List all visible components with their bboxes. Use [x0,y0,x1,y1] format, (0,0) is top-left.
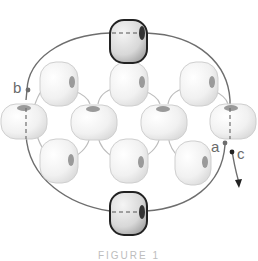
bead-hole-icon [138,156,144,168]
figure-caption: FIGURE 1 [0,250,258,261]
bead-hole-icon [17,105,31,111]
lower-row-beads [40,139,211,185]
upper-row-beads [40,62,218,106]
bead-hole-icon [139,205,145,219]
label-a: a [211,139,219,154]
bead-hole-icon [139,76,145,88]
bead-hole-icon [86,106,100,112]
arrow-down-icon [235,179,242,188]
label-b: b [13,80,21,95]
bead-hole-icon [68,154,74,166]
bead-hole-icon [139,26,145,40]
middle-row-beads [1,104,256,140]
bead-hole-icon [202,156,208,168]
point-c-marker [230,150,235,155]
label-c: c [237,146,245,161]
bead-hole-icon [69,76,75,88]
bead-hole-icon [224,105,238,111]
bead-hole-icon [156,106,170,112]
point-b-marker [26,88,31,93]
bead-hole-icon [209,76,215,88]
point-a-marker [223,141,228,146]
